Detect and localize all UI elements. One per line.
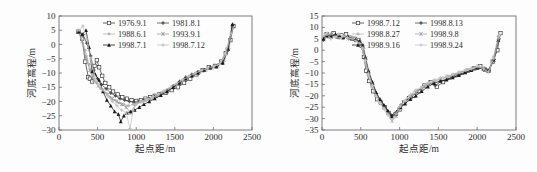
data-marker-legend <box>419 43 422 46</box>
y-tick-label-3: −5 <box>46 54 56 64</box>
data-layer <box>321 31 502 122</box>
data-marker-legend <box>161 43 164 46</box>
series-1998-9-8 <box>322 32 500 123</box>
series-1998-8-27 <box>322 32 500 120</box>
y-axis-title: 河底高程/m <box>26 47 37 98</box>
legend-label-3: 1998.9.8 <box>430 30 459 39</box>
y-tick-label-7: −25 <box>41 111 56 121</box>
legend-label-4: 1998.9.16 <box>367 41 400 50</box>
x-tick-label-1: 500 <box>91 132 105 142</box>
series-line <box>79 25 233 122</box>
series-1998-7-1 <box>77 23 234 124</box>
data-marker-0-11 <box>107 86 110 89</box>
y-tick-label-4: −10 <box>41 68 56 78</box>
x-tick-label-5: 2500 <box>243 132 262 142</box>
legend-swatch-0 <box>352 21 364 24</box>
legend-swatch-2 <box>352 33 364 36</box>
y-tick-label-5: −15 <box>41 82 56 92</box>
legend-swatch-1 <box>157 21 169 24</box>
legend: 1976.9.11981.8.11988.6.11993.9.11998.7.1… <box>103 19 205 50</box>
x-tick-label-3: 1500 <box>429 132 448 142</box>
series-line <box>323 34 498 116</box>
legend-label-0: 1976.9.1 <box>118 19 147 28</box>
legend-swatch-0 <box>103 21 115 24</box>
legend: 1998.7.121998.8.131998.8.271998.9.81998.… <box>352 19 463 50</box>
legend-swatch-1 <box>415 21 427 24</box>
chart-panel-right: 05001000150020002500151050−5−10−15−20−25… <box>268 0 536 172</box>
data-marker-legend <box>357 33 360 36</box>
x-tick-label-2: 1000 <box>127 132 146 142</box>
y-tick-label-8: −30 <box>41 125 56 135</box>
legend-label-2: 1988.6.1 <box>118 30 147 39</box>
series-line <box>324 34 499 121</box>
legend-swatch-3 <box>157 32 169 36</box>
y-tick-label-7: −20 <box>304 91 319 101</box>
legend-label-5: 1998.9.24 <box>430 41 463 50</box>
x-tick-label-1: 500 <box>354 132 368 142</box>
legend-swatch-2 <box>103 33 115 36</box>
data-marker-4-17 <box>137 105 141 109</box>
x-axis-title: 起点距/m <box>399 144 440 154</box>
series-1998-9-16 <box>321 32 500 118</box>
y-axis-title: 河底高程/m <box>289 47 300 98</box>
legend-swatch-5 <box>415 43 427 46</box>
chart-panel-left: 050010001500200025001050−5−10−15−20−25−3… <box>0 0 268 172</box>
y-tick-label-6: −15 <box>304 79 319 89</box>
data-marker-3-11 <box>124 105 127 109</box>
data-marker-0-9 <box>101 74 104 77</box>
legend-label-2: 1998.8.27 <box>367 30 400 39</box>
data-layer <box>76 23 235 131</box>
figure-container: 050010001500200025001050−5−10−15−20−25−3… <box>0 0 537 172</box>
series-1981-8-1 <box>77 23 234 104</box>
y-tick-label-9: −30 <box>304 114 319 124</box>
series-1998-8-13 <box>322 33 501 117</box>
data-marker-legend <box>161 21 164 24</box>
series-line <box>323 33 498 119</box>
y-tick-label-8: −25 <box>304 102 319 112</box>
legend-label-0: 1998.7.12 <box>367 19 400 28</box>
legend-label-4: 1998.7.1 <box>118 41 147 50</box>
x-tick-label-3: 1500 <box>166 132 185 142</box>
series-line <box>323 33 501 116</box>
y-tick-label-1: 10 <box>310 22 320 32</box>
legend-label-1: 1998.8.13 <box>430 19 463 28</box>
data-marker-0-2 <box>84 60 87 63</box>
data-marker-legend <box>107 21 110 24</box>
data-marker-4-12 <box>119 119 123 123</box>
series-1998-7-12 <box>321 31 502 118</box>
x-tick-label-0: 0 <box>57 132 62 142</box>
y-tick-label-4: −5 <box>309 57 319 67</box>
data-marker-0-7 <box>95 58 98 61</box>
data-marker-legend <box>108 33 111 36</box>
legend-label-3: 1993.9.1 <box>172 30 201 39</box>
x-tick-label-5: 2500 <box>507 132 526 142</box>
series-1976-9-1 <box>77 24 236 102</box>
y-tick-label-3: 0 <box>314 45 319 55</box>
legend-swatch-3 <box>415 32 427 36</box>
x-tick-label-4: 2000 <box>468 132 487 142</box>
series-1998-9-24 <box>321 33 501 122</box>
legend-label-5: 1998.7.12 <box>172 41 205 50</box>
data-marker-legend <box>356 21 359 24</box>
y-tick-label-0: 10 <box>47 11 57 21</box>
data-marker-0-10 <box>104 81 107 84</box>
plot-frame <box>59 16 252 130</box>
data-marker-3-9 <box>115 100 118 104</box>
data-marker-0-8 <box>97 66 100 69</box>
left-chart-svg: 050010001500200025001050−5−10−15−20−25−3… <box>0 0 268 172</box>
x-tick-label-4: 2000 <box>204 132 223 142</box>
legend-label-1: 1981.8.1 <box>172 19 201 28</box>
data-marker-4-11 <box>117 112 121 116</box>
legend-swatch-4 <box>103 43 115 47</box>
y-tick-label-6: −20 <box>41 97 56 107</box>
y-tick-label-2: 0 <box>51 40 56 50</box>
data-marker-0-25 <box>176 86 179 89</box>
series-line <box>324 34 499 115</box>
y-tick-label-5: −10 <box>304 68 319 78</box>
y-tick-label-10: −35 <box>304 125 319 135</box>
legend-swatch-5 <box>157 43 169 46</box>
y-tick-label-2: 5 <box>314 34 319 44</box>
data-marker-legend <box>419 21 422 24</box>
series-line <box>323 34 500 120</box>
right-chart-svg: 05001000150020002500151050−5−10−15−20−25… <box>268 0 537 172</box>
